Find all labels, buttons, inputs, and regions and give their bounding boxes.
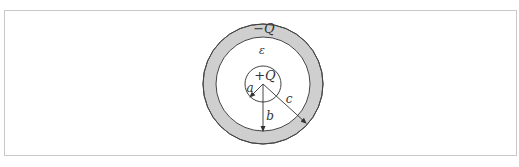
spherical-capacitor-diagram: −Q ε +Q a b c	[0, 0, 519, 167]
radius-c-label: c	[286, 92, 293, 106]
outer-charge-label: −Q	[253, 21, 275, 36]
dielectric-label: ε	[259, 44, 265, 57]
radius-a-label: a	[246, 81, 253, 95]
radius-b-label: b	[266, 109, 274, 123]
inner-charge-label: +Q	[254, 68, 276, 83]
